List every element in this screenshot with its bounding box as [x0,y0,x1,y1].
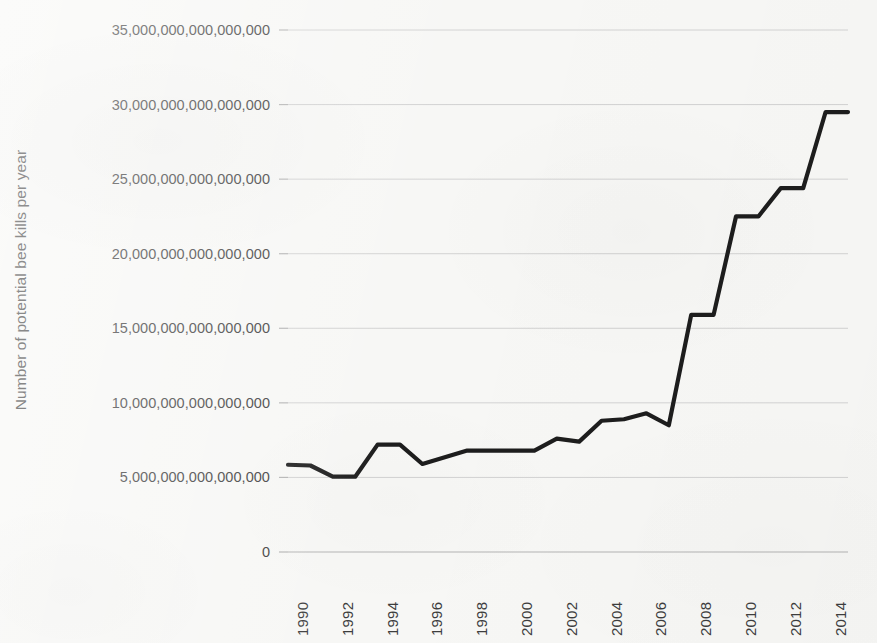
y-axis-tick-label: 5,000,000,000,000,000 [60,469,270,485]
x-axis-tick-label: 2012 [787,602,804,636]
y-axis-tick-label: 15,000,000,000,000,000 [60,320,270,336]
x-axis-tick-label: 1996 [428,602,445,636]
y-axis-tick-label: 0 [60,544,270,560]
plot-area [288,30,848,552]
x-axis-tick-label: 2006 [652,602,669,636]
x-axis-tick-label: 1992 [339,602,356,636]
y-axis-tick-label: 35,000,000,000,000,000 [60,22,270,38]
x-axis-tick-label: 1990 [294,602,311,636]
x-axis-tick-label: 2004 [608,602,625,636]
y-axis-tick-label: 20,000,000,000,000,000 [60,246,270,262]
line-chart: Number of potential bee kills per year 3… [0,0,877,643]
y-axis-title: Number of potential bee kills per year [12,50,30,510]
y-axis-tick-labels: 35,000,000,000,000,00030,000,000,000,000… [45,0,270,643]
y-axis-tick-label: 25,000,000,000,000,000 [60,171,270,187]
x-axis-tick-label: 1994 [384,602,401,636]
x-axis-tick-label: 2014 [832,602,849,636]
y-axis-tick-label: 10,000,000,000,000,000 [60,395,270,411]
x-axis-tick-label: 2002 [563,602,580,636]
x-axis-tick-labels: 1990199219941996199820002002200420062008… [288,552,848,643]
x-axis-tick-label: 2010 [742,602,759,636]
x-axis-tick-label: 1998 [473,602,490,636]
y-axis-tick-label: 30,000,000,000,000,000 [60,97,270,113]
axis-tick-marks [288,30,848,552]
x-axis-tick-label: 2008 [697,602,714,636]
x-axis-tick-label: 2000 [518,602,535,636]
